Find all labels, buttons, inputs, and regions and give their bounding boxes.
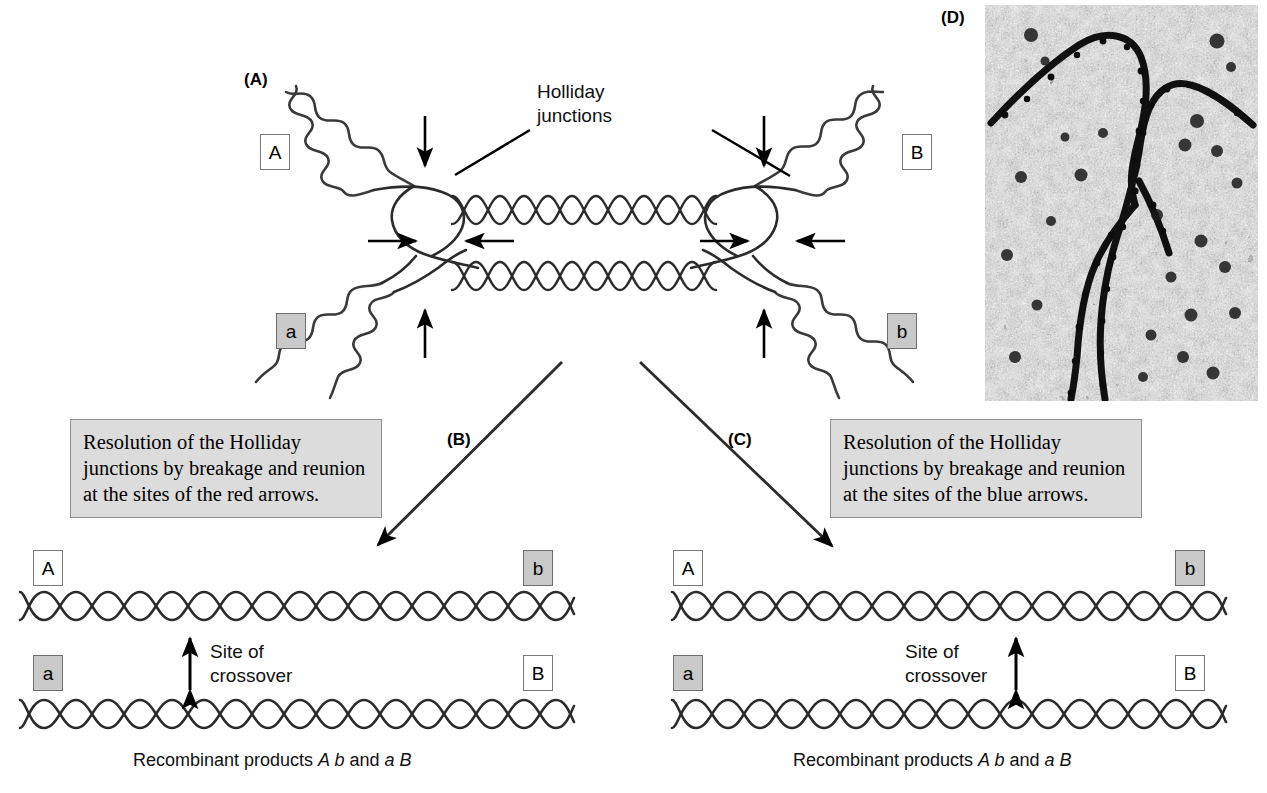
caption-b-gene2: a B bbox=[385, 750, 412, 770]
product-helix-c-lower bbox=[672, 700, 1226, 728]
allele-box-a-top-left: A bbox=[260, 134, 290, 170]
figure-canvas: (A) Holliday junctions A B a b Resolutio… bbox=[0, 0, 1267, 793]
holliday-junctions-label: Holliday junctions bbox=[537, 80, 612, 128]
allele-box-b-top-right: b bbox=[523, 550, 553, 586]
dna-arm-top-right bbox=[755, 86, 883, 196]
panel-letter-b: (B) bbox=[447, 430, 471, 450]
product-helix-b-lower bbox=[20, 700, 574, 728]
allele-box-b-bottom-right: B bbox=[523, 655, 553, 691]
allele-box-c-bottom-left: a bbox=[673, 655, 703, 691]
flow-arrow-c bbox=[640, 362, 832, 546]
crossover-label-b: Site of crossover bbox=[210, 640, 292, 688]
electron-micrograph bbox=[985, 5, 1258, 401]
allele-box-c-top-right: b bbox=[1175, 550, 1205, 586]
holliday-junction-right bbox=[691, 186, 795, 292]
heteroduplex-upper bbox=[452, 196, 716, 224]
heteroduplex-lower bbox=[452, 262, 716, 290]
caption-c-prefix: Recombinant products bbox=[793, 750, 978, 770]
caption-c-gene2: a B bbox=[1045, 750, 1072, 770]
panel-letter-c: (C) bbox=[728, 430, 752, 450]
allele-box-c-top-left: A bbox=[673, 550, 703, 586]
allele-box-a-bottom-left: a bbox=[276, 313, 306, 349]
crossover-label-c: Site of crossover bbox=[905, 640, 987, 688]
dna-arm-top-left bbox=[286, 86, 414, 196]
product-helix-c-upper bbox=[672, 592, 1226, 620]
caption-c-gene1: A b bbox=[978, 750, 1004, 770]
allele-box-a-top-right: B bbox=[902, 134, 932, 170]
allele-box-b-bottom-left: a bbox=[33, 655, 63, 691]
product-helix-b-upper bbox=[20, 592, 574, 620]
panel-letter-a: (A) bbox=[244, 70, 268, 90]
leader-line-right bbox=[712, 130, 790, 176]
caption-b-middle: and bbox=[344, 750, 384, 770]
holliday-junction-left bbox=[374, 186, 478, 292]
flow-arrow-b bbox=[378, 362, 562, 545]
caption-c: Recombinant products A b and a B bbox=[793, 750, 1072, 771]
caption-b-gene1: A b bbox=[318, 750, 344, 770]
caption-c-middle: and bbox=[1004, 750, 1044, 770]
caption-b-prefix: Recombinant products bbox=[133, 750, 318, 770]
leader-line-left bbox=[455, 130, 530, 175]
allele-box-a-bottom-right: b bbox=[887, 313, 917, 349]
resolution-box-c: Resolution of the Holliday junctions by … bbox=[830, 419, 1142, 518]
allele-box-c-bottom-right: B bbox=[1175, 655, 1205, 691]
resolution-box-b: Resolution of the Holliday junctions by … bbox=[70, 419, 382, 518]
allele-box-b-top-left: A bbox=[33, 550, 63, 586]
panel-letter-d: (D) bbox=[941, 8, 965, 28]
caption-b: Recombinant products A b and a B bbox=[133, 750, 412, 771]
